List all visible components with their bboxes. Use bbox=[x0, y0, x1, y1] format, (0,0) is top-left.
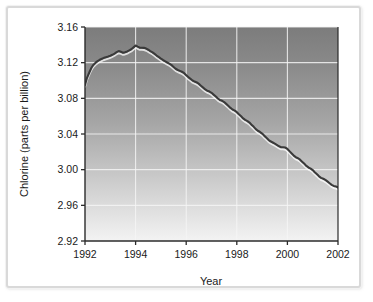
x-tick-label: 2002 bbox=[326, 248, 350, 260]
chart-figure: 2.922.963.003.043.083.123.16 19921994199… bbox=[0, 0, 373, 302]
y-axis-title: Chlorine (parts per billion) bbox=[18, 71, 30, 197]
x-tick-label: 2000 bbox=[276, 248, 300, 260]
y-tick-label: 3.08 bbox=[58, 92, 79, 104]
y-tick-label: 3.16 bbox=[58, 21, 79, 33]
x-tick-label: 1998 bbox=[225, 248, 249, 260]
plot-container: 2.922.963.003.043.083.123.16 19921994199… bbox=[0, 0, 373, 302]
x-axis-ticks: 199219941996199820002002 bbox=[73, 241, 350, 260]
y-tick-label: 2.92 bbox=[58, 235, 79, 247]
y-tick-label: 3.04 bbox=[58, 128, 79, 140]
y-axis-ticks: 2.922.963.003.043.083.123.16 bbox=[58, 21, 85, 247]
y-tick-label: 2.96 bbox=[58, 199, 79, 211]
x-axis-title: Year bbox=[200, 275, 223, 287]
x-tick-label: 1996 bbox=[175, 248, 199, 260]
x-tick-label: 1992 bbox=[73, 248, 97, 260]
x-tick-label: 1994 bbox=[124, 248, 148, 260]
chlorine-line-chart: 2.922.963.003.043.083.123.16 19921994199… bbox=[0, 0, 373, 302]
y-tick-label: 3.00 bbox=[58, 163, 79, 175]
y-tick-label: 3.12 bbox=[58, 56, 79, 68]
